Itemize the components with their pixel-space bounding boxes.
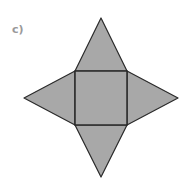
left-triangle: [24, 71, 75, 125]
top-triangle: [75, 18, 127, 71]
base-square: [75, 71, 127, 125]
pyramid-net-diagram: [0, 0, 189, 181]
bottom-triangle: [75, 125, 127, 177]
right-triangle: [127, 71, 178, 125]
